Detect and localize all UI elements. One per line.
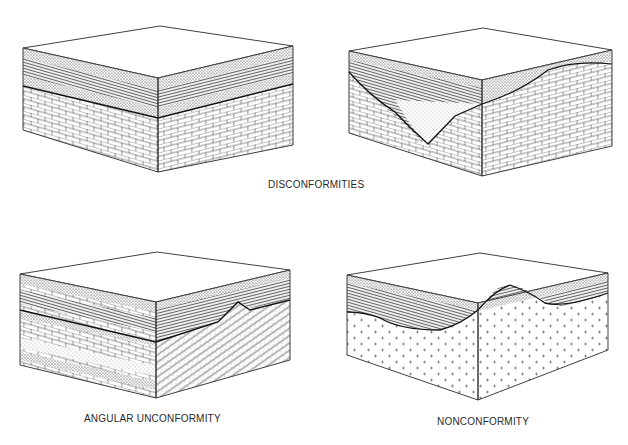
block-disconformity-channel xyxy=(349,28,612,176)
unconformities-figure xyxy=(0,0,628,445)
caption-nonconformity: NONCONFORMITY xyxy=(437,416,529,427)
block-angular-unconformity xyxy=(20,252,290,398)
block-nonconformity xyxy=(347,253,608,400)
caption-angular-unconformity: ANGULAR UNCONFORMITY xyxy=(84,413,221,424)
block-disconformity-planar xyxy=(23,26,293,172)
caption-disconformities: DISCONFORMITIES xyxy=(268,179,364,190)
